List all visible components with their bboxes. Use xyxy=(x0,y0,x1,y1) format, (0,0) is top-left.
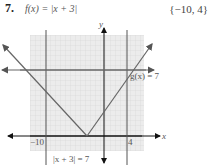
x-axis-label: x xyxy=(161,131,166,141)
equation-label: |x + 3| = 7 xyxy=(53,154,90,164)
graph: y x −10 4 g(x) = 7 |x + 3| = 7 xyxy=(0,0,216,165)
tick-label-neg10: −10 xyxy=(30,137,45,147)
g-label: g(x) = 7 xyxy=(130,71,160,81)
y-axis-label: y xyxy=(98,19,103,29)
tick-label-4: 4 xyxy=(128,137,133,147)
